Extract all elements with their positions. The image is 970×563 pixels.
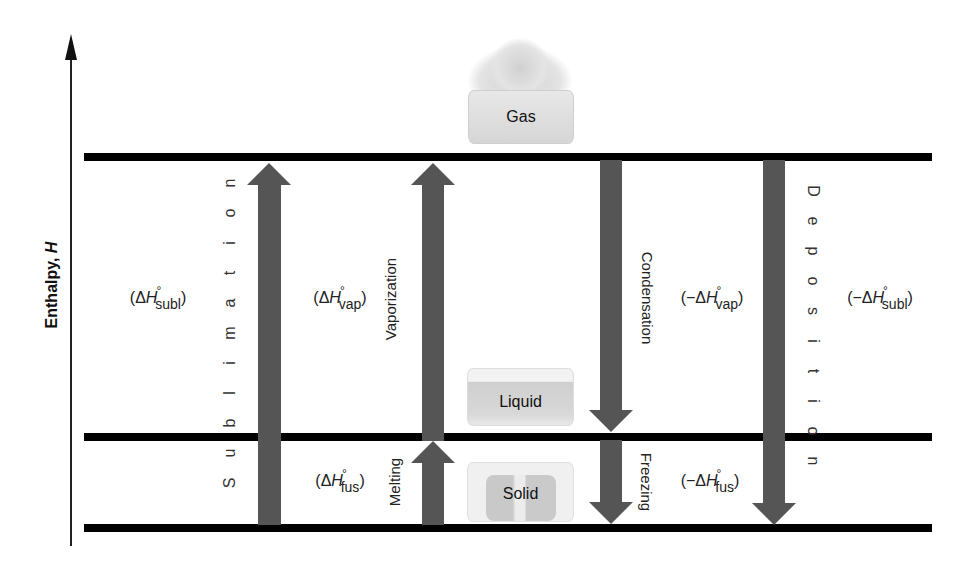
deposition-label: D e p o s i t i o n <box>801 176 825 476</box>
vaporization-enthalpy: (ΔH°vap) <box>313 284 366 312</box>
sublimation-enthalpy: (ΔH°subl) <box>130 284 186 312</box>
melting-label: Melting <box>386 458 403 506</box>
solid-label: Solid <box>503 485 539 503</box>
deposition-enthalpy: (−ΔH°subl) <box>847 284 913 312</box>
vaporization-label: Vaporization <box>382 258 399 340</box>
vaporization-arrow-shaft <box>422 184 444 441</box>
condensation-label: Condensation <box>639 252 656 345</box>
condensation-arrowhead-icon <box>589 410 633 432</box>
gas-label: Gas <box>506 108 535 126</box>
melting-arrowhead-icon <box>411 441 455 463</box>
liquid-container: Liquid <box>467 368 574 426</box>
gas-container: Gas <box>468 90 574 144</box>
solid-container: Solid <box>467 462 574 522</box>
sublimation-arrow-shaft <box>258 184 281 525</box>
axis-label: Enthalpy, H <box>43 242 61 329</box>
freezing-enthalpy: (−ΔH°fus) <box>681 467 740 495</box>
enthalpy-axis <box>70 38 72 546</box>
melting-enthalpy: (ΔH°fus) <box>315 467 364 495</box>
deposition-arrowhead-icon <box>752 503 796 525</box>
freezing-arrow-shaft <box>600 440 622 503</box>
condensation-enthalpy: (−ΔH°vap) <box>681 284 744 312</box>
solid-level-line <box>84 524 932 532</box>
gas-level-line <box>84 153 932 161</box>
freezing-label: Freezing <box>638 453 655 511</box>
freezing-arrowhead-icon <box>589 502 633 524</box>
gas-smoke <box>490 38 550 98</box>
liquid-label: Liquid <box>499 393 542 411</box>
deposition-arrow-shaft <box>763 160 785 504</box>
sublimation-label: S u b l i m a t i o n <box>218 168 242 498</box>
sublimation-arrowhead-icon <box>247 163 291 185</box>
vaporization-arrowhead-icon <box>411 163 455 185</box>
axis-arrowhead-icon <box>65 34 77 60</box>
condensation-arrow-shaft <box>600 160 622 411</box>
melting-arrow-shaft <box>422 462 444 525</box>
